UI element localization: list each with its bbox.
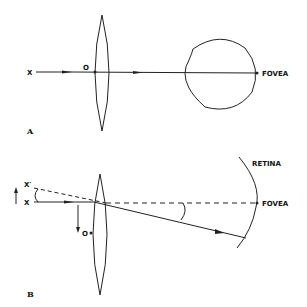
fovea-label: FOVEA	[262, 200, 289, 208]
arrowhead-icon	[64, 201, 74, 204]
lens-b	[93, 174, 107, 295]
fovea-dot	[256, 72, 259, 75]
nodal-point-dot	[90, 232, 93, 235]
object-label-x: X	[24, 199, 30, 207]
object-label-x: X	[27, 69, 33, 77]
arrowhead-icon	[133, 71, 143, 74]
nodal-point-label: O	[82, 230, 88, 238]
eyeball	[185, 39, 256, 109]
nodal-point-dot	[94, 71, 97, 74]
panel-b: X′ X O RETINA FOVEA B	[14, 157, 289, 299]
refracted-ray	[94, 202, 246, 238]
panel-a: X O FOVEA A	[26, 15, 289, 136]
angle-arc-left	[35, 189, 38, 202]
optical-axis	[72, 72, 256, 73]
arrowhead-icon	[62, 71, 72, 74]
arrowhead-icon	[215, 229, 224, 234]
nodal-point-label: O	[83, 64, 89, 72]
panel-label-b: B	[27, 289, 34, 299]
retina-label: RETINA	[252, 160, 281, 168]
fovea-label: FOVEA	[262, 70, 289, 78]
lens-a	[95, 15, 109, 131]
fovea-dot	[256, 202, 259, 205]
panel-label-a: A	[26, 126, 34, 136]
optics-diagram: X O FOVEA A X′ X O RETINA FOVEA B	[0, 0, 307, 307]
displaced-object-label: X′	[24, 181, 31, 189]
angle-arc-right	[181, 203, 185, 220]
